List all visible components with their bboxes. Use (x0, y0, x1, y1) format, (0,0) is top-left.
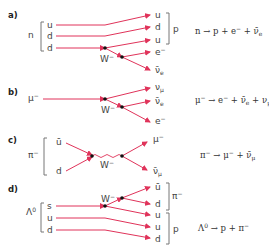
product-group-pion: π− (172, 190, 182, 201)
panel-label-d: d) (8, 184, 18, 194)
svg-text:ν̄μ: ν̄μ (153, 166, 162, 178)
svg-text:d: d (56, 166, 62, 176)
panel-c: c) π− ū d W− μ− ν̄μ π− → μ− + ν̄μ (8, 133, 255, 178)
svg-text:u: u (155, 35, 161, 45)
svg-text:νμ: νμ (155, 82, 164, 94)
parent-lambda: Λ0 (26, 206, 36, 217)
vertex (103, 46, 107, 50)
parent-pion: π− (28, 149, 38, 160)
svg-text:u: u (155, 210, 161, 220)
svg-text:s: s (47, 201, 52, 211)
parent-muon: μ− (28, 92, 39, 103)
panel-a: a) n u d d W− u d u e− ν̄e p n → p + e− … (8, 10, 263, 76)
svg-text:e−: e− (155, 115, 166, 126)
svg-text:d: d (47, 43, 53, 53)
panel-b: b) μ− W− νμ ν̄e e− μ− → e− + ν̄e + νμ (8, 82, 269, 126)
svg-text:d: d (155, 22, 161, 32)
svg-text:d: d (155, 234, 161, 244)
svg-text:ν̄e: ν̄e (155, 96, 164, 107)
svg-text:ū: ū (56, 137, 62, 147)
svg-text:u: u (155, 10, 161, 20)
bracket-pion (44, 138, 47, 175)
panel-label-a: a) (8, 10, 18, 20)
panel-label-b: b) (8, 87, 18, 97)
parent-neutron: n (28, 30, 34, 40)
svg-text:u: u (47, 20, 53, 30)
lepton-lines-b (43, 88, 150, 122)
vertex (120, 55, 124, 59)
bracket-proton-d (166, 213, 169, 244)
weak-decay-feynman-diagrams: a) n u d d W− u d u e− ν̄e p n → p + e− … (0, 0, 269, 247)
boson-w-a: W− (100, 53, 114, 64)
panel-label-c: c) (8, 135, 17, 145)
svg-text:W−: W− (100, 159, 114, 170)
svg-text:e−: e− (155, 46, 166, 57)
equation-a: n → p + e− + ν̄e (195, 25, 263, 37)
svg-text:W−: W− (101, 104, 115, 115)
bracket-lambda (41, 203, 44, 232)
svg-text:u: u (47, 213, 53, 223)
bracket-pion-d (166, 183, 169, 210)
svg-text:μ−: μ− (153, 133, 164, 144)
equation-b: μ− → e− + ν̄e + νμ (195, 94, 269, 107)
equation-d: Λ0 → p + π− (197, 222, 249, 233)
panel-d: d) Λ0 s u d W− ū d u u d π− p Λ0 → p + π… (8, 182, 249, 244)
equation-c: π− → μ− + ν̄μ (200, 149, 255, 162)
product-group-proton: p (173, 24, 179, 34)
svg-text:d: d (155, 199, 161, 209)
svg-text:ū: ū (155, 182, 161, 192)
svg-text:u: u (155, 222, 161, 232)
svg-text:d: d (47, 225, 53, 235)
bracket-neutron (41, 22, 44, 51)
svg-text:d: d (47, 31, 53, 41)
product-group-proton-d: p (173, 224, 179, 234)
svg-text:ν̄e: ν̄e (155, 65, 164, 76)
bracket-proton-a (166, 13, 169, 44)
